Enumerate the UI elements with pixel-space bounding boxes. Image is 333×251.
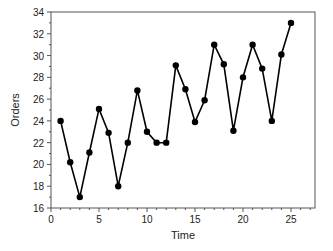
y-tick-label: 28 — [33, 72, 45, 83]
data-point — [105, 130, 111, 136]
x-tick-label: 15 — [189, 214, 201, 225]
y-tick-label: 18 — [33, 181, 45, 192]
data-point — [57, 118, 63, 124]
data-point — [288, 20, 294, 26]
data-point — [153, 139, 159, 145]
data-point — [96, 106, 102, 112]
data-point — [134, 87, 140, 93]
x-tick-label: 20 — [237, 214, 249, 225]
y-tick-label: 20 — [33, 159, 45, 170]
y-axis: 16182022242628303234 — [33, 7, 51, 214]
x-tick-label: 25 — [285, 214, 297, 225]
y-axis-label: Orders — [9, 93, 21, 127]
x-tick-label: 10 — [141, 214, 153, 225]
x-axis: 0510152025 — [48, 208, 310, 225]
y-tick-label: 34 — [33, 7, 45, 18]
y-tick-label: 16 — [33, 203, 45, 214]
y-tick-label: 30 — [33, 51, 45, 62]
data-point — [240, 74, 246, 80]
data-point — [201, 97, 207, 103]
y-tick-label: 26 — [33, 94, 45, 105]
x-tick-label: 0 — [48, 214, 54, 225]
data-point — [173, 62, 179, 68]
data-point — [269, 118, 275, 124]
data-point — [278, 51, 284, 57]
data-point — [163, 139, 169, 145]
y-tick-label: 32 — [33, 29, 45, 40]
y-tick-label: 24 — [33, 116, 45, 127]
x-axis-label: Time — [171, 229, 195, 241]
y-tick-label: 22 — [33, 138, 45, 149]
data-point — [192, 119, 198, 125]
data-point — [182, 86, 188, 92]
data-point — [125, 139, 131, 145]
data-point — [230, 127, 236, 133]
data-point — [259, 65, 265, 71]
data-point — [211, 41, 217, 47]
data-point — [77, 194, 83, 200]
data-point — [221, 61, 227, 67]
data-point — [67, 159, 73, 165]
data-point — [144, 129, 150, 135]
data-point — [249, 41, 255, 47]
line-chart: 16182022242628303234 0510152025 Time Ord… — [0, 0, 333, 251]
data-point — [115, 183, 121, 189]
x-tick-label: 5 — [96, 214, 102, 225]
data-point — [86, 149, 92, 155]
plot-area — [51, 12, 315, 208]
